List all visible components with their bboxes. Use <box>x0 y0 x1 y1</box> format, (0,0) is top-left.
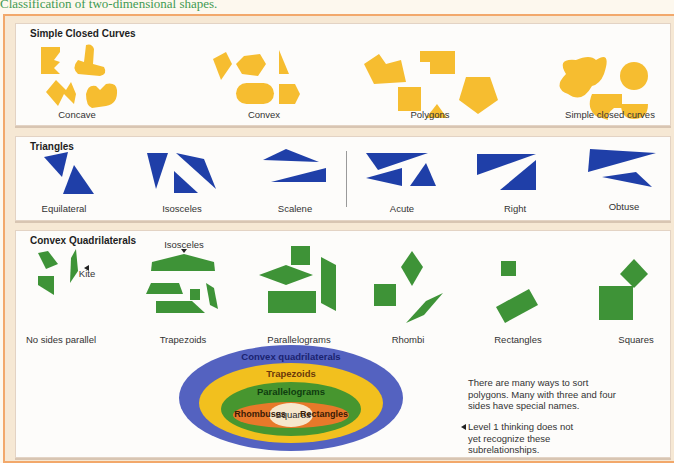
isosceles-annotation: Isosceles <box>164 239 204 250</box>
figure-frame: Simple Closed Curves <box>3 14 674 463</box>
rhombus-square <box>374 284 396 306</box>
trapezoid-shape <box>146 283 183 294</box>
group-label-simple-closed-curves: Simple closed curves <box>565 109 655 120</box>
concave-shape <box>75 45 106 77</box>
level1-pointer-icon <box>461 424 466 430</box>
isosceles-trapezoid <box>151 254 215 271</box>
isosceles-triangle <box>147 153 168 189</box>
group-label-scalene: Scalene <box>278 203 312 214</box>
trapezoid-shape <box>206 283 218 309</box>
group-label-convex: Convex <box>248 109 280 120</box>
polygon-shape <box>398 87 421 111</box>
convex-shape <box>279 50 289 74</box>
kite-annotation: Kite <box>79 268 95 279</box>
obtuse-triangle <box>602 172 652 187</box>
group-label-isosceles: Isosceles <box>162 203 202 214</box>
kite-shape <box>70 249 78 283</box>
parallelogram-shape <box>321 257 336 311</box>
equilateral-triangle <box>44 152 68 177</box>
group-label-squares: Squares <box>618 334 653 345</box>
group-label-polygons: Polygons <box>410 109 449 120</box>
rhombus-shape <box>406 293 443 323</box>
panel-triangles: Triangles Equilateral Isosceles S <box>15 136 671 221</box>
group-label-trapezoids: Trapezoids <box>160 334 207 345</box>
venn-label-convex-quadrilaterals: Convex quadrilaterals <box>241 351 340 362</box>
note-level1: Level 1 thinking does not yet recognize … <box>468 421 578 456</box>
scalene-triangle <box>271 168 326 182</box>
parallelogram-square <box>291 246 310 265</box>
parallelogram-shape <box>259 265 313 285</box>
rectangle-shape <box>501 261 516 276</box>
venn-label-trapezoids: Trapezoids <box>266 368 316 379</box>
venn-label-rectangles: Rectangles <box>300 409 348 419</box>
trapezoid-shape <box>156 301 205 313</box>
concave-shape <box>86 84 117 108</box>
blue-triangles <box>16 137 672 222</box>
square-shape <box>599 286 633 320</box>
group-label-rhombi: Rhombi <box>392 334 425 345</box>
trapezoid-shape <box>190 289 200 300</box>
group-label-right: Right <box>504 203 526 214</box>
quad-shape <box>38 251 58 269</box>
group-label-equilateral: Equilateral <box>42 203 87 214</box>
venn-label-parallelograms: Parallelograms <box>257 386 325 397</box>
figure-caption: Classification of two-dimensional shapes… <box>0 0 217 12</box>
group-label-concave: Concave <box>58 109 96 120</box>
parallelogram-rect <box>268 291 316 313</box>
polygon-shape <box>420 51 455 74</box>
acute-triangle <box>366 168 402 186</box>
rectangle-shape <box>496 289 538 323</box>
square-shape <box>620 259 648 288</box>
concave-shape <box>41 47 60 74</box>
panel-convex-quadrilaterals: Convex Quadrilaterals <box>15 230 671 458</box>
polygon-shape <box>459 77 498 114</box>
scalene-triangle <box>263 149 319 162</box>
curve-shape <box>620 62 648 90</box>
polygon-shape <box>364 54 406 84</box>
acute-triangle <box>366 153 428 170</box>
convex-shape <box>279 84 300 104</box>
group-label-obtuse: Obtuse <box>609 201 640 212</box>
triangle-divider <box>346 151 347 207</box>
convex-shape <box>236 54 266 76</box>
group-label-acute: Acute <box>390 203 414 214</box>
isosceles-triangle <box>174 171 198 193</box>
equilateral-triangle <box>63 165 94 194</box>
group-label-rectangles: Rectangles <box>494 334 542 345</box>
note-sorting: There are many ways to sort polygons. Ma… <box>468 377 628 412</box>
curve-shape <box>559 57 606 98</box>
concave-shape <box>46 80 76 106</box>
quad-shape <box>38 276 54 295</box>
rhombus-shape <box>401 251 423 286</box>
acute-triangle <box>410 163 436 186</box>
group-label-no-sides-parallel: No sides parallel <box>26 334 96 345</box>
convex-shape <box>213 52 232 80</box>
group-label-parallelograms: Parallelograms <box>267 334 330 345</box>
obtuse-triangle <box>588 149 656 172</box>
convex-shape <box>236 83 274 104</box>
panel-simple-closed-curves: Simple Closed Curves <box>15 23 671 126</box>
